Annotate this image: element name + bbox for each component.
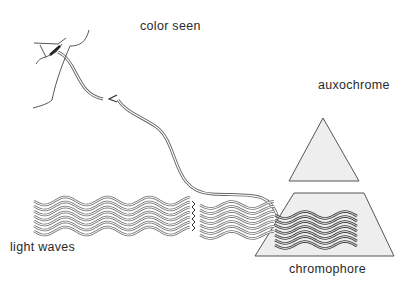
wave-cut-zigzag	[192, 201, 195, 231]
light-waves-label: light waves	[10, 240, 75, 254]
light-waves-middle	[200, 202, 274, 239]
chromophore-label: chromophore	[289, 262, 366, 276]
auxochrome-triangle	[289, 118, 359, 181]
light-waves-incoming	[34, 197, 190, 235]
reflected-light-path	[58, 52, 278, 218]
diagram-canvas: color seen auxochrome light waves chromo…	[0, 0, 414, 288]
eye-icon	[33, 30, 89, 108]
arrowhead-icon	[109, 95, 117, 102]
auxochrome-label: auxochrome	[318, 78, 390, 92]
color-seen-label: color seen	[140, 19, 201, 33]
